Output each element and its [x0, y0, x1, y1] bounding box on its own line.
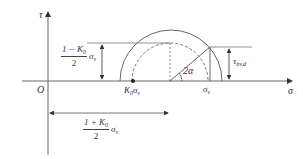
angle-label: 2α [183, 66, 193, 76]
outer-mohr-circle [120, 30, 222, 81]
radius-annotation: 1 − K0 2 σv [61, 44, 96, 68]
sigma-axis-label: σ [288, 86, 293, 96]
tau-axis-label: τ [39, 10, 43, 20]
center-annotation: 1 + K0 2 σv [83, 117, 118, 141]
origin-label: O [37, 85, 44, 95]
k0-sigma-label: K0σv [124, 86, 140, 96]
angle-arc [179, 73, 182, 81]
tau-bvd-label: τbv,d [233, 57, 246, 67]
mohr-circle-diagram [0, 0, 303, 159]
k0-sigma-point [131, 79, 135, 83]
sigma-v-label: σv [203, 85, 210, 95]
